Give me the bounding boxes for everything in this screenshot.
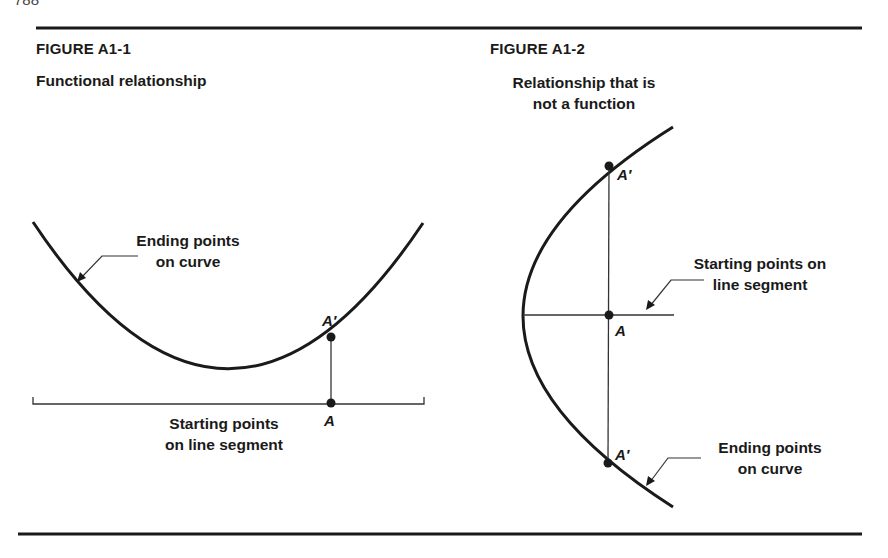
fig2-point-a xyxy=(605,311,614,320)
fig2-title: FIGURE A1-2 xyxy=(490,40,585,57)
fig1-point-a-prime-label: A′ xyxy=(322,312,336,329)
fig2-point-a-prime-bottom-label: A′ xyxy=(615,446,629,463)
fig1-title: FIGURE A1-1 xyxy=(36,40,131,57)
fig2-caption: Relationship that is not a function xyxy=(484,72,684,114)
fig1-segment-label: Starting points on line segment xyxy=(140,413,308,455)
fig2-curve-label: Ending points on curve xyxy=(700,437,840,479)
fig1-line-segment xyxy=(33,397,424,404)
fig1-point-a-prime xyxy=(327,333,336,342)
fig2-segment-label: Starting points on line segment xyxy=(680,253,840,295)
fig1-curve-label: Ending points on curve xyxy=(122,230,254,272)
fig2-curve xyxy=(523,127,673,507)
fig1-caption: Functional relationship xyxy=(36,72,207,90)
fig2-point-a-prime-bottom xyxy=(604,459,613,468)
fig1-point-a xyxy=(327,399,336,408)
fig2-point-a-prime-top xyxy=(605,162,614,171)
fig1-point-a-label: A xyxy=(324,412,335,429)
fig2-point-a-label: A xyxy=(615,322,626,339)
fig2-point-a-prime-top-label: A′ xyxy=(617,166,631,183)
fig2-curve-leader xyxy=(650,458,701,482)
